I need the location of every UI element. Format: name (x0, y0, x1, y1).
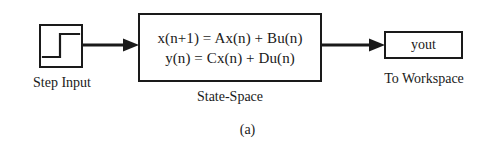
to-workspace-block[interactable]: yout (384, 31, 463, 59)
arrow-right-icon-state-space-to-workspace (321, 38, 385, 52)
workspace-variable-name: yout (411, 37, 436, 53)
to-workspace-label: To Workspace (366, 70, 482, 87)
state-space-block[interactable]: x(n+1) = Ax(n) + Bu(n) y(n) = Cx(n) + Du… (138, 13, 322, 82)
arrow-right-icon-step-to-state-space (83, 38, 139, 52)
step-waveform-icon (41, 26, 81, 66)
figure-caption: (a) (0, 121, 495, 138)
step-input-label: Step Input (16, 74, 108, 91)
state-space-label: State-Space (170, 88, 290, 105)
state-equation-line-1: x(n+1) = Ax(n) + Bu(n) (157, 28, 302, 48)
output-equation-line-2: y(n) = Cx(n) + Du(n) (165, 48, 295, 68)
block-diagram: Step Input x(n+1) = Ax(n) + Bu(n) y(n) =… (0, 0, 495, 149)
step-input-block[interactable] (39, 24, 83, 68)
